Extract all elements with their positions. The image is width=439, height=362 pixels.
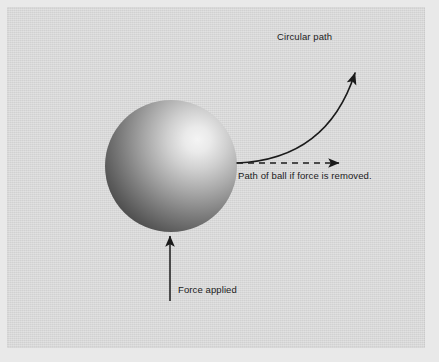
diagram-canvas: [0, 0, 439, 362]
ball: [105, 100, 237, 232]
figure-root: Circular path Path of ball if force is r…: [0, 0, 439, 362]
label-circular-path: Circular path: [277, 31, 332, 43]
label-force-applied: Force applied: [178, 284, 237, 296]
label-tangent-path: Path of ball if force is removed.: [238, 170, 372, 182]
circular-path-arrow: [237, 73, 355, 163]
